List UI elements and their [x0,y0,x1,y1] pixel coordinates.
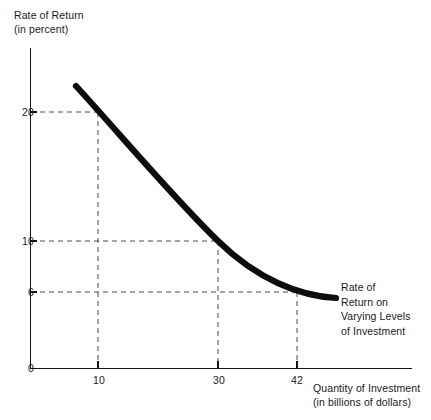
y-axis-title: Rate of Return(in percent) [14,8,84,36]
y-tick-label-10: 10 [8,235,34,248]
curve-annotation-line1: Rate of [341,281,376,293]
y-axis-title-line1: Rate of Return [14,9,84,21]
x-axis-title-line2: (in billions of dollars) [313,396,411,408]
guide-lines-point-42-6 [31,292,297,368]
x-tick-label-42: 42 [285,374,309,387]
x-tick-label-30: 30 [207,374,231,387]
curve-annotation-line3: Varying Levels [341,310,411,322]
x-axis-title: Quantity of Investment(in billions of do… [313,381,420,409]
y-tick-label-0: 0 [8,362,34,375]
guide-lines-point-10-20 [31,112,98,368]
guide-lines-point-30-10 [31,241,218,368]
y-tick-label-20: 20 [8,106,34,119]
y-axis-title-line2: (in percent) [14,23,68,35]
curve-annotation-line2: Return on [341,296,388,308]
curve-annotation-line4: of Investment [341,325,405,337]
curve-annotation-label: Rate ofReturn onVarying Levelsof Investm… [341,280,411,338]
x-axis-title-line1: Quantity of Investment [313,382,420,394]
x-tick-marks [98,361,297,368]
rate-of-return-curve [76,86,336,298]
chart-plot-area [0,0,431,420]
y-tick-label-6: 6 [8,286,34,299]
investment-demand-chart: Rate of Return(in percent) Quantity of I… [0,0,431,420]
x-tick-label-10: 10 [87,374,111,387]
